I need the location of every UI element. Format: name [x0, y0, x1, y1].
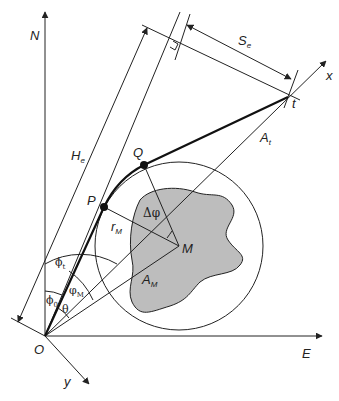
- label-y: y: [63, 374, 72, 389]
- span-tick-right: [284, 70, 298, 108]
- label-radius: rM: [111, 219, 122, 236]
- label-north: N: [30, 28, 40, 43]
- label-phi-0: ϕ0: [46, 294, 58, 309]
- label-center: M: [182, 241, 193, 256]
- point-q: [140, 161, 148, 169]
- label-height: He: [71, 148, 85, 165]
- span-tick-left: [175, 14, 190, 60]
- label-p: P: [87, 193, 96, 208]
- label-origin: O: [34, 342, 44, 357]
- label-span: Se: [238, 33, 252, 50]
- point-p: [100, 203, 108, 211]
- label-delta-phi: Δφ: [143, 206, 160, 220]
- label-range-target: At: [259, 130, 272, 147]
- label-phi-m: φM: [69, 284, 84, 299]
- geometry-diagram: N E x y O t P Q M At AM rM He Se Δφ ϕt ϕ…: [0, 0, 339, 401]
- right-angle-marker: [170, 41, 178, 50]
- label-theta: θ: [62, 303, 69, 316]
- label-x: x: [325, 68, 333, 83]
- label-east: E: [302, 346, 311, 361]
- label-phi-t: ϕt: [55, 256, 66, 271]
- top-perpendicular: [142, 25, 300, 100]
- bottom-tick: [11, 318, 45, 336]
- label-q: Q: [133, 145, 143, 160]
